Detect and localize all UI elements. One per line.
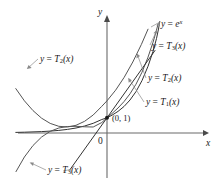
curves-group bbox=[16, 22, 160, 172]
tangency-point-label: (0, 1) bbox=[112, 114, 130, 123]
label-exponential-eq: = bbox=[165, 19, 175, 29]
origin-label: 0 bbox=[98, 137, 103, 147]
label-t2-upper-arg: (x) bbox=[171, 73, 182, 83]
label-t2-left-arg: (x) bbox=[63, 54, 74, 64]
label-t3-upper-eq: = bbox=[156, 41, 166, 51]
label-t3-upper: y = T3(x) bbox=[152, 42, 185, 52]
figure-canvas bbox=[0, 0, 219, 189]
y-axis-label: y bbox=[98, 8, 102, 18]
y-axis-arrow bbox=[104, 15, 110, 22]
label-t3-lower-arg: (x) bbox=[71, 165, 82, 175]
x-axis-label: x bbox=[206, 139, 210, 149]
curve-t3 bbox=[16, 24, 158, 171]
curve-exp bbox=[16, 22, 160, 133]
x-axis-arrow bbox=[203, 130, 209, 136]
label-t1: y = T1(x) bbox=[146, 98, 179, 108]
label-t1-eq: = bbox=[150, 97, 160, 107]
axes-group bbox=[18, 15, 209, 178]
label-t3-lower-eq: = bbox=[52, 165, 62, 175]
tangency-point-marker bbox=[105, 116, 109, 120]
leader-t3-lower-arrow bbox=[30, 162, 34, 166]
label-t2-left-eq: = bbox=[44, 54, 54, 64]
leader-t3-upper-arrow bbox=[153, 30, 157, 34]
label-t2-upper-eq: = bbox=[152, 73, 162, 83]
label-t3-upper-arg: (x) bbox=[175, 41, 186, 51]
label-exponential: y = ex bbox=[161, 19, 182, 29]
label-t2-left: y = T2(x) bbox=[40, 55, 73, 65]
label-t1-arg: (x) bbox=[169, 97, 180, 107]
taylor-polynomial-figure: y x 0 (0, 1) y = ex y = T3(x) y = T2(x) … bbox=[0, 0, 219, 189]
leader-lines-group bbox=[27, 22, 160, 171]
label-t3-lower: y = T3(x) bbox=[48, 166, 81, 176]
label-exponential-exponent: x bbox=[180, 18, 183, 25]
label-t2-upper: y = T2(x) bbox=[148, 74, 181, 84]
